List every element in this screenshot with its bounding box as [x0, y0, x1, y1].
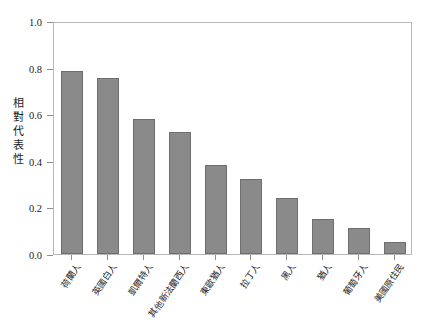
x-axis-tick-mark: [358, 255, 359, 260]
y-axis-tick-labels: 0.00.20.40.60.81.0: [12, 0, 42, 336]
x-axis-tick-mark: [215, 255, 216, 260]
x-axis-tick-mark: [107, 255, 108, 260]
x-axis-tick-label: 東歐猶人: [198, 262, 227, 297]
y-axis-tick-label: 0.4: [16, 156, 42, 167]
y-axis-tick-label: 0.2: [16, 203, 42, 214]
bar: [276, 198, 298, 254]
bar: [312, 219, 334, 254]
x-axis-tick-label: 凱爾特人: [126, 262, 155, 297]
bar: [240, 179, 262, 254]
bar: [133, 119, 155, 254]
x-axis-tick-label: 猶人: [316, 262, 335, 282]
x-axis-tick-mark: [322, 255, 323, 260]
x-axis-tick-label: 黑人: [280, 262, 299, 282]
x-axis-tick-label: 葡萄牙人: [341, 262, 370, 297]
x-axis-tick-label: 英國白人: [90, 262, 119, 297]
bar: [61, 71, 83, 254]
y-axis-tick-mark: [47, 255, 53, 256]
bar: [97, 78, 119, 254]
bar: [169, 132, 191, 254]
x-axis-tick-mark: [71, 255, 72, 260]
x-axis-tick-mark: [394, 255, 395, 260]
x-axis-tick-label: 美國原住民: [372, 262, 406, 305]
plot-area: [53, 22, 412, 255]
x-axis-tick-mark: [179, 255, 180, 260]
y-axis-tick-label: 0.6: [16, 110, 42, 121]
x-axis-tick-label: 荷蘭人: [59, 262, 83, 290]
bar: [205, 165, 227, 254]
bar: [348, 228, 370, 254]
y-axis-tick-label: 0.8: [16, 63, 42, 74]
y-axis-tick-label: 0.0: [16, 250, 42, 261]
x-axis-tick-label: 拉丁人: [239, 262, 263, 290]
x-axis-tick-mark: [250, 255, 251, 260]
bar-chart-figure: 相對代表性 0.00.20.40.60.81.0 荷蘭人英國白人凱爾特人其他新法…: [0, 0, 427, 336]
x-axis-tick-mark: [286, 255, 287, 260]
x-axis-tick-mark: [143, 255, 144, 260]
y-axis-tick-label: 1.0: [16, 17, 42, 28]
bar: [384, 242, 406, 254]
